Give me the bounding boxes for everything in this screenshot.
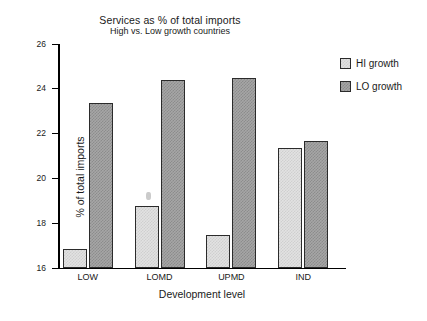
chart-title: Services as % of total imports (0, 14, 340, 26)
y-axis-tick-label: 26 (6, 40, 46, 49)
bar-upmd-lo-growth (232, 78, 256, 268)
y-axis-tick-label: 20 (6, 174, 46, 183)
y-axis-tick-label: 16 (6, 264, 46, 273)
bar-low-lo-growth (89, 103, 113, 268)
y-axis-title: % of total imports (74, 102, 86, 252)
bar-lomd-hi-growth (135, 206, 159, 268)
paper-smudge-artifact (146, 192, 151, 200)
bar-ind-lo-growth (304, 141, 328, 268)
legend: HI growth LO growth (340, 58, 427, 104)
x-axis-label-ind: IND (268, 272, 338, 282)
y-axis-tick-label: 18 (6, 219, 46, 228)
x-axis-label-low: LOW (53, 272, 123, 282)
legend-item-lo-growth: LO growth (340, 81, 427, 92)
x-axis-label-lomd: LOMD (125, 272, 195, 282)
x-axis-title: Development level (58, 288, 346, 300)
legend-item-hi-growth: HI growth (340, 58, 427, 69)
legend-swatch-icon-hi-growth (340, 58, 351, 69)
y-axis-tick-label: 22 (6, 129, 46, 138)
chart-subtitle: High vs. Low growth countries (0, 26, 340, 37)
plot-area: % of total imports (58, 44, 345, 268)
bar-lomd-lo-growth (161, 80, 185, 268)
y-axis-tick-label: 24 (6, 84, 46, 93)
legend-label-lo-growth: LO growth (356, 81, 402, 92)
x-axis-label-upmd: UPMD (196, 272, 266, 282)
bar-upmd-hi-growth (206, 235, 230, 268)
bar-chart: Services as % of total imports High vs. … (0, 0, 427, 321)
bar-ind-hi-growth (278, 148, 302, 268)
legend-swatch-icon-lo-growth (340, 81, 351, 92)
legend-label-hi-growth: HI growth (356, 58, 399, 69)
